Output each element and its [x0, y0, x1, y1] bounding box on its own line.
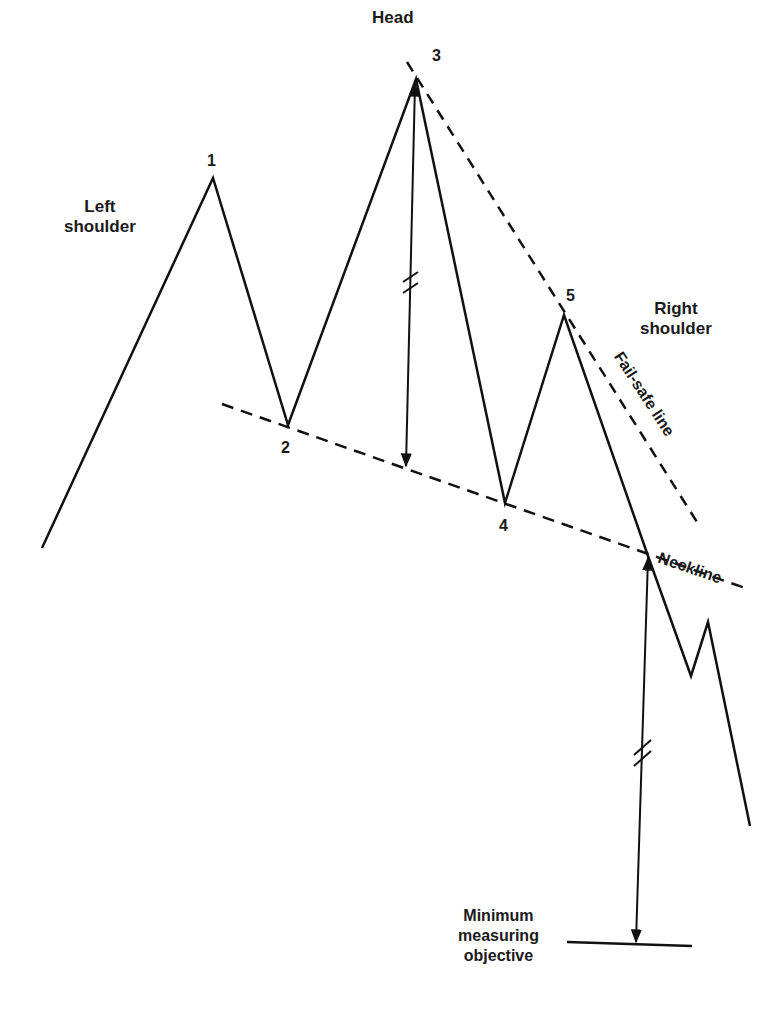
point-3-label: 3: [432, 46, 441, 66]
minimum-objective-label: Minimum measuring objective: [458, 906, 539, 966]
point-2-label: 2: [281, 438, 290, 458]
point-4-label: 4: [499, 516, 508, 536]
head-label: Head: [372, 8, 414, 28]
right-shoulder-label: Right shoulder: [640, 299, 712, 339]
objective-arrow: [636, 558, 648, 942]
left-shoulder-label: Left shoulder: [64, 197, 136, 237]
head-and-shoulders-diagram: [0, 0, 784, 1012]
point-5-label: 5: [566, 286, 575, 306]
minimum-objective-line: [567, 942, 692, 946]
point-1-label: 1: [207, 151, 216, 171]
fail-safe-line: [407, 62, 697, 522]
